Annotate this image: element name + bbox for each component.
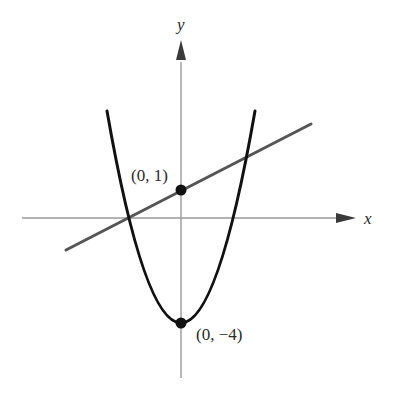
x-axis-arrow-icon (336, 213, 356, 223)
x-axis-label: x (363, 209, 372, 228)
y-axis-label: y (175, 15, 185, 34)
point-label-0-1: (0, 1) (131, 166, 168, 185)
x-axis (22, 213, 356, 223)
graph-figure: x y (0, 1) (0, −4) (0, 0, 404, 393)
line-curve (66, 124, 311, 250)
point-label-0-neg4: (0, −4) (196, 325, 242, 344)
point-0-1-marker (176, 185, 187, 196)
y-axis-arrow-icon (176, 40, 186, 60)
point-0-neg4-marker (176, 318, 187, 329)
